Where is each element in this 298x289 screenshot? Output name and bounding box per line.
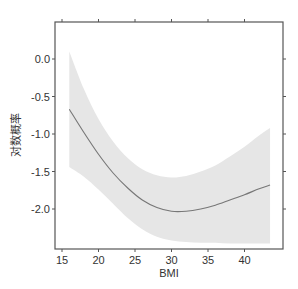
chart: 152025303540 0.0-0.5-1.0-1.5-2.0 BMI 对数概… bbox=[0, 0, 298, 289]
y-tick-label: -2.0 bbox=[31, 203, 50, 215]
x-tick-label: 15 bbox=[56, 254, 68, 266]
x-tick-label: 20 bbox=[92, 254, 104, 266]
x-axis-label: BMI bbox=[159, 267, 179, 279]
x-tick-label: 35 bbox=[202, 254, 214, 266]
x-tick-label: 40 bbox=[238, 254, 250, 266]
x-tick-label: 30 bbox=[165, 254, 177, 266]
x-tick-label: 25 bbox=[129, 254, 141, 266]
y-axis-label: 对数概率 bbox=[9, 113, 22, 157]
confidence-band bbox=[69, 52, 270, 244]
y-tick-label: -0.5 bbox=[31, 91, 50, 103]
y-tick-label: 0.0 bbox=[35, 53, 50, 65]
y-tick-label: -1.5 bbox=[31, 166, 50, 178]
y-tick-label: -1.0 bbox=[31, 128, 50, 140]
